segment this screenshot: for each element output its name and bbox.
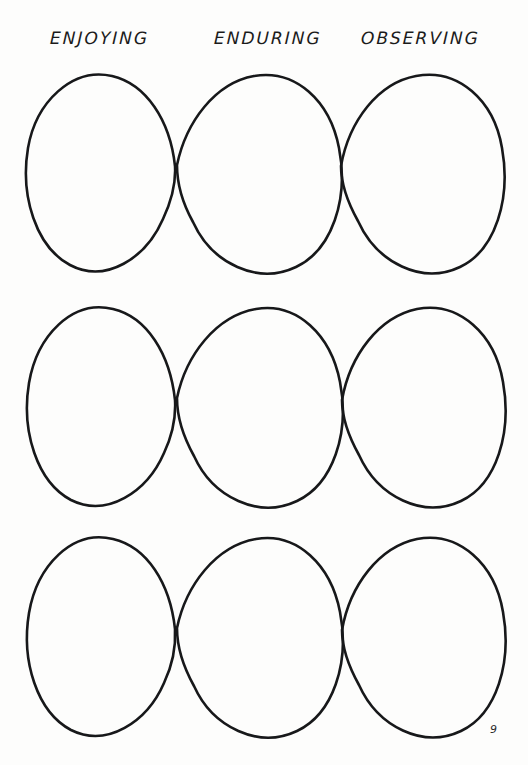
oval-r1-c1 [26,75,175,272]
oval-r1-c3 [341,75,505,274]
oval-grid-canvas [0,0,528,765]
oval-r3-c1 [27,537,175,735]
oval-r2-c1 [27,307,175,505]
oval-r3-c3 [342,538,506,738]
oval-r1-c2 [177,75,342,273]
page-number: 9 [490,723,497,736]
oval-r2-c3 [342,308,506,508]
oval-group [26,75,506,738]
oval-r3-c2 [177,538,343,737]
worksheet-page: ENJOYING ENDURING OBSERVING 9 [0,0,528,765]
oval-r2-c2 [177,308,343,507]
oval-grid [0,0,528,765]
